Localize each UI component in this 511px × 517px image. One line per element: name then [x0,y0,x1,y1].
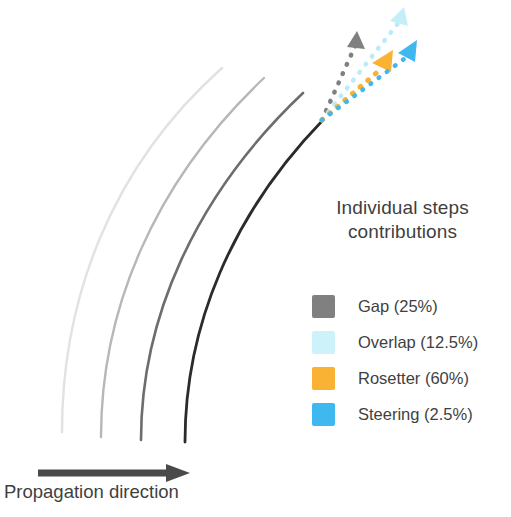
legend-item-steering: Steering (2.5%) [312,396,511,432]
legend-label-rosetter: Rosetter (60%) [358,369,469,388]
propagation-direction-caption: Propagation direction [4,481,179,503]
legend-swatch-steering [312,403,335,426]
legend-title-line-1: Individual steps [300,196,505,220]
legend-item-gap: Gap (25%) [312,288,511,324]
propagation-direction-arrow [38,464,190,482]
weld-bead-curves [62,68,323,442]
legend-label-overlap: Overlap (12.5%) [358,333,478,352]
legend-title: Individual steps contributions [300,196,511,244]
step-contribution-arrows [322,7,417,120]
gap-vector-arrow [322,31,365,120]
legend-swatch-rosetter [312,367,335,390]
legend-label-steering: Steering (2.5%) [358,405,473,424]
legend-swatch-gap [312,295,335,318]
weld-curve-outermost [62,68,222,432]
legend-swatch-overlap [312,331,335,354]
legend-title-line-2: contributions [300,220,505,244]
legend-panel: Individual steps contributions Gap (25%)… [300,196,511,432]
legend-items: Gap (25%) Overlap (12.5%) Rosetter (60%)… [300,288,511,432]
legend-label-gap: Gap (25%) [358,297,438,316]
legend-item-rosetter: Rosetter (60%) [312,360,511,396]
rosetter-vector-arrow [322,50,393,120]
figure-canvas: Individual steps contributions Gap (25%)… [0,0,511,517]
legend-item-overlap: Overlap (12.5%) [312,324,511,360]
